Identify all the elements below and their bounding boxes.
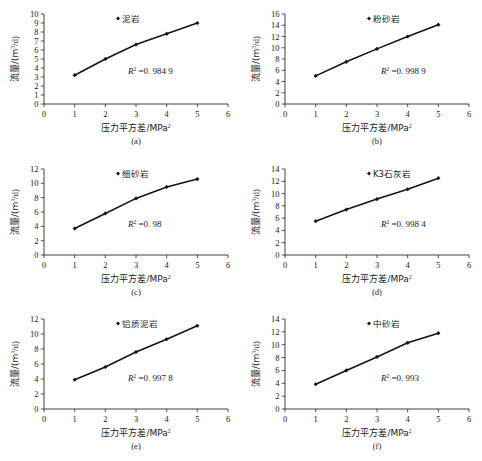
y-tick-label: 8 [275, 201, 279, 211]
y-tick-label: 2 [275, 88, 279, 98]
chart-svg-e: 0123456024681012铝质泥岩R2 =0. 997 8流量/(m3/d… [0, 305, 241, 461]
x-tick-label: 0 [283, 260, 287, 270]
y-axis-label: 流量/(m3/d) [250, 189, 261, 235]
y-tick-label: 12 [271, 176, 280, 186]
r-value: =0. 997 8 [136, 373, 173, 383]
x-axis-label: 压力平方差/MPa2 [101, 122, 170, 133]
y-label-main: 流量/(m [9, 202, 20, 235]
x-tick-label: 6 [467, 260, 471, 270]
y-tick-label: 10 [30, 329, 39, 339]
chart-panel-c: 0123456024681012细砂岩R2 =0. 98流量/(m3/d)压力平… [0, 155, 241, 305]
y-tick-label: 14 [271, 164, 280, 174]
axes [285, 169, 469, 255]
x-tick-label: 3 [375, 414, 379, 424]
r-squared-annotation: R2 =0. 98 [127, 219, 162, 229]
x-label-main: 压力平方差/MPa [342, 427, 408, 438]
svg-text:压力平方差/MPa2: 压力平方差/MPa2 [101, 427, 170, 438]
y-tick-label: 4 [275, 378, 280, 388]
y-tick-group: 02468101214 [271, 314, 285, 414]
y-tick-label: 4 [34, 221, 39, 231]
x-tick-label: 5 [436, 414, 440, 424]
x-tick-label: 1 [314, 414, 318, 424]
x-tick-label: 5 [195, 260, 199, 270]
legend: K3石灰岩 [367, 169, 411, 179]
data-point-marker [436, 23, 440, 27]
r-squared-text: R2 =0. 984 9 [127, 66, 173, 76]
y-axis-label: 流量/(m3/d) [9, 189, 20, 235]
x-tick-label: 2 [344, 414, 348, 424]
x-tick-label: 6 [226, 260, 230, 270]
panel-caption: (c) [131, 287, 141, 297]
y-label-main: 流量/(m [9, 354, 20, 387]
x-tick-label: 2 [103, 414, 107, 424]
y-label-main: 流量/(m [250, 354, 261, 387]
x-tick-label: 0 [42, 260, 46, 270]
r-squared-text: R2 =0. 998 4 [380, 219, 426, 229]
x-axis-label: 压力平方差/MPa2 [342, 427, 411, 438]
data-point-marker [165, 32, 169, 36]
x-label-main: 压力平方差/MPa [342, 273, 408, 284]
panel-caption: (d) [372, 287, 382, 297]
y-label-tail: /d) [251, 36, 261, 46]
y-tick-label: 16 [271, 9, 280, 19]
data-point-marker [344, 207, 348, 211]
x-tick-label: 4 [165, 109, 170, 119]
chart-svg-f: 012345602468101214中砂岩R2 =0. 993流量/(m3/d)… [241, 305, 482, 461]
y-tick-label: 8 [34, 27, 38, 37]
r-squared-text: R2 =0. 98 [127, 219, 162, 229]
x-tick-group: 0123456 [42, 104, 230, 119]
svg-text:压力平方差/MPa2: 压力平方差/MPa2 [342, 273, 411, 284]
svg-text:流量/(m3/d): 流量/(m3/d) [250, 341, 261, 387]
y-tick-label: 10 [30, 9, 39, 19]
x-tick-group: 0123456 [283, 104, 471, 119]
diamond-marker-icon [367, 172, 371, 176]
legend: 泥岩 [116, 14, 140, 24]
x-tick-label: 1 [73, 109, 77, 119]
r-value: =0. 98 [136, 219, 162, 229]
x-tick-label: 3 [375, 260, 379, 270]
x-axis-label: 压力平方差/MPa2 [342, 273, 411, 284]
x-tick-label: 1 [73, 414, 77, 424]
x-tick-label: 3 [134, 109, 138, 119]
y-tick-label: 0 [275, 250, 279, 260]
x-tick-label: 0 [42, 109, 46, 119]
panel-caption: (e) [131, 441, 141, 451]
svg-text:流量/(m3/d): 流量/(m3/d) [9, 36, 20, 82]
y-tick-label: 0 [275, 404, 279, 414]
y-tick-label: 6 [34, 359, 38, 369]
y-tick-label: 10 [271, 340, 280, 350]
data-point-group [314, 176, 441, 223]
x-tick-group: 0123456 [42, 409, 230, 424]
svg-text:流量/(m3/d): 流量/(m3/d) [250, 36, 261, 82]
y-label-main: 流量/(m [9, 49, 20, 82]
chart-svg-c: 0123456024681012细砂岩R2 =0. 98流量/(m3/d)压力平… [0, 155, 241, 305]
data-point-group [314, 331, 441, 386]
x-tick-label: 0 [283, 414, 287, 424]
x-tick-group: 0123456 [42, 255, 230, 270]
y-axis-label: 流量/(m3/d) [250, 341, 261, 387]
y-tick-group: 02468101214 [271, 164, 285, 260]
x-tick-label: 6 [226, 414, 230, 424]
y-tick-label: 9 [34, 18, 38, 28]
svg-text:压力平方差/MPa2: 压力平方差/MPa2 [342, 122, 411, 133]
axes [44, 14, 228, 104]
y-tick-label: 6 [275, 365, 279, 375]
y-tick-label: 2 [34, 81, 38, 91]
x-label-main: 压力平方差/MPa [101, 427, 167, 438]
data-point-marker [195, 177, 199, 181]
x-label-superscript: 2 [409, 123, 412, 129]
y-tick-label: 2 [275, 238, 279, 248]
r-value: =0. 993 [389, 373, 419, 383]
y-tick-label: 0 [34, 404, 38, 414]
y-tick-label: 12 [271, 32, 280, 42]
legend: 中砂岩 [367, 319, 400, 329]
x-tick-label: 5 [436, 109, 440, 119]
r-squared-annotation: R2 =0. 998 9 [380, 66, 426, 76]
axes [44, 169, 228, 255]
x-tick-label: 5 [195, 414, 199, 424]
svg-text:压力平方差/MPa2: 压力平方差/MPa2 [101, 273, 170, 284]
r-squared-annotation: R2 =0. 998 4 [380, 219, 426, 229]
y-tick-label: 7 [34, 36, 38, 46]
chart-panel-e: 0123456024681012铝质泥岩R2 =0. 997 8流量/(m3/d… [0, 305, 241, 461]
y-tick-label: 5 [34, 54, 38, 64]
